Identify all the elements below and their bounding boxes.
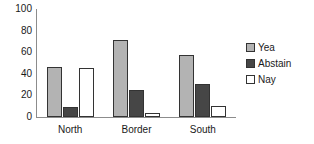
x-axis-label: South [170,124,236,135]
x-axis-line [36,117,236,118]
y-tick-label: 80 [21,26,32,36]
legend-label: Nay [258,74,276,85]
legend-label: Yea [258,42,275,53]
bar-chart: 100806040200 YeaAbstainNay NorthBorderSo… [0,0,314,144]
legend-swatch-icon [246,75,255,84]
bar[interactable] [63,107,78,117]
y-tick-label: 20 [21,90,32,100]
y-axis-labels: 100806040200 [0,0,34,144]
bar[interactable] [47,67,62,117]
bar[interactable] [211,106,226,117]
bar[interactable] [179,55,194,117]
bar[interactable] [145,113,160,117]
bar-group [179,9,226,117]
bar-group [47,9,94,117]
bar[interactable] [79,68,94,117]
bar[interactable] [113,40,128,117]
bar[interactable] [129,90,144,117]
legend-item[interactable]: Yea [246,40,308,55]
x-axis-label: North [37,124,103,135]
legend-item[interactable]: Abstain [246,56,308,71]
legend-label: Abstain [258,58,291,69]
y-tick-label: 100 [15,4,32,14]
bar[interactable] [195,84,210,117]
plot-area [37,9,236,117]
legend-swatch-icon [246,43,255,52]
y-tick-label: 0 [26,112,32,122]
legend-item[interactable]: Nay [246,72,308,87]
x-axis-label: Border [103,124,169,135]
bar-group [113,9,160,117]
y-tick-label: 40 [21,69,32,79]
chart-legend: YeaAbstainNay [246,40,308,88]
legend-swatch-icon [246,59,255,68]
y-tick-label: 60 [21,47,32,57]
